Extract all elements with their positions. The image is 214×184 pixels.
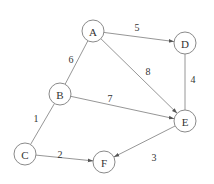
edge-weight-label: 2 (58, 149, 63, 160)
node-f: F (93, 151, 115, 173)
edge-weight-label: 8 (146, 66, 151, 77)
edge-e-f (114, 126, 175, 157)
node-label: B (56, 89, 63, 101)
edge-c-f (36, 155, 93, 161)
edge-b-e (71, 96, 174, 118)
node-b: B (49, 83, 71, 105)
node-a: A (82, 20, 104, 42)
node-e: E (174, 110, 196, 132)
node-label: D (181, 38, 189, 50)
edge-weight-label: 4 (191, 74, 196, 85)
node-label: A (89, 26, 97, 38)
node-label: E (182, 116, 189, 128)
edge-b-c (31, 104, 55, 145)
node-label: F (101, 157, 107, 169)
edge-weight-label: 7 (108, 93, 113, 104)
node-label: C (21, 149, 28, 161)
edge-weight-label: 5 (135, 22, 140, 33)
node-d: D (174, 32, 196, 54)
edge-weight-label: 6 (69, 54, 74, 65)
weighted-graph-diagram: 56847123 ABCDEF (0, 0, 214, 184)
edge-weight-label: 3 (152, 152, 157, 163)
edge-a-d (104, 32, 174, 41)
edge-weight-label: 1 (34, 113, 39, 124)
node-c: C (14, 143, 36, 165)
